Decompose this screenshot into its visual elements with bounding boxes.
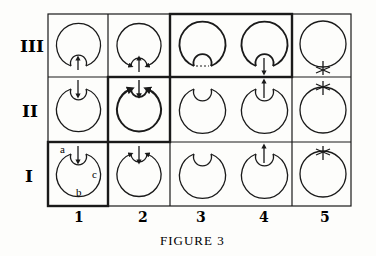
cell-III-1-glyph: [57, 23, 101, 70]
cell-II-5-glyph: [300, 81, 346, 133]
col-label-2: 2: [138, 209, 148, 225]
col-label-4: 4: [259, 209, 269, 225]
cell-II-1-glyph: [56, 80, 100, 132]
row-label-III: III: [20, 36, 44, 56]
annotation-a: a: [60, 143, 65, 155]
annotation-b: b: [76, 186, 82, 198]
figure-caption: FIGURE 3: [160, 233, 225, 248]
row-label-I: I: [25, 166, 33, 186]
cell-II-4-glyph: [242, 81, 288, 133]
col-label-3: 3: [196, 209, 206, 225]
row-label-II: II: [22, 101, 38, 121]
cell-I-5-glyph: [300, 146, 346, 197]
col-label-5: 5: [320, 209, 330, 225]
cell-II-3-glyph: [180, 89, 226, 133]
cell-III-3-glyph: [180, 22, 226, 66]
annotation-c: c: [92, 168, 97, 180]
cell-II-2-glyph: [117, 80, 161, 131]
cell-I-3-glyph: [180, 154, 226, 198]
cell-I-4-glyph: [242, 146, 288, 198]
cell-III-2-glyph: [117, 24, 161, 72]
cell-III-4-glyph: [242, 22, 288, 73]
figure-3-diagram: III II I 1 2 3 4 5 FIGURE 3: [0, 0, 376, 256]
cell-III-5-glyph: [300, 21, 346, 75]
col-label-1: 1: [74, 209, 84, 225]
cell-I-2-glyph: [117, 146, 161, 196]
